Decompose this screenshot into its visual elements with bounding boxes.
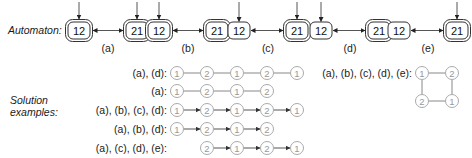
solution-row-label: (a), (d): xyxy=(133,67,167,79)
node-label: 2 xyxy=(264,86,269,97)
cycle-solution-label: (a), (b), (c), (d), (e): xyxy=(322,67,412,79)
node-label: 2 xyxy=(264,124,269,135)
automata-group: 1221(a)1221(b)1221(c)1221(d)1221(e) xyxy=(66,2,471,54)
state-21-accepting: 21 xyxy=(204,20,231,42)
state-label: 21 xyxy=(131,25,143,37)
node-label: 1 xyxy=(294,105,299,116)
solution-row: (a), (b), (d):1212 xyxy=(114,123,274,136)
state-label: 12 xyxy=(153,25,165,37)
node-label: 2 xyxy=(264,68,269,79)
node-label: 1 xyxy=(294,143,299,154)
node-label: 1 xyxy=(174,68,179,79)
state-label: 21 xyxy=(451,25,463,37)
solution-row-label: (a), (b), (c), (d): xyxy=(96,104,167,116)
automaton-caption: (b) xyxy=(182,42,195,54)
solution-node: 2 xyxy=(261,104,274,117)
solution-row: (a), (b), (c), (d):12121 xyxy=(96,104,304,117)
solution-node: 2 xyxy=(201,67,214,80)
solution-node: 1 xyxy=(171,67,184,80)
solution-node: 2 xyxy=(201,85,214,98)
node-label: 1 xyxy=(174,105,179,116)
automaton-e: 1221(e) xyxy=(388,2,471,54)
node-label: 1 xyxy=(449,96,454,107)
cycle-node: 1 xyxy=(416,67,429,80)
node-label: 1 xyxy=(174,86,179,97)
diagram-canvas: Automaton: Solution examples: 1221(a)122… xyxy=(0,0,472,158)
solution-node: 2 xyxy=(201,104,214,117)
node-label: 1 xyxy=(234,68,239,79)
solution-label-line1: Solution xyxy=(10,94,48,106)
state-label: 12 xyxy=(233,25,245,37)
solutions-group: (a), (d):12121(a):1212(a), (b), (c), (d)… xyxy=(96,67,304,155)
solution-node: 1 xyxy=(171,85,184,98)
solution-node: 2 xyxy=(261,123,274,136)
state-12-accepting: 12 xyxy=(66,2,93,42)
solution-node: 1 xyxy=(291,67,304,80)
automaton-caption: (e) xyxy=(422,42,435,54)
cycle-node: 2 xyxy=(416,95,429,108)
state-12: 12 xyxy=(388,22,410,39)
state-12: 12 xyxy=(228,2,250,39)
node-label: 2 xyxy=(204,86,209,97)
node-label: 1 xyxy=(234,143,239,154)
node-label: 1 xyxy=(234,86,239,97)
solution-node: 1 xyxy=(291,104,304,117)
solution-row-label: (a): xyxy=(151,85,167,97)
node-label: 2 xyxy=(204,143,209,154)
state-label: 21 xyxy=(211,25,223,37)
node-label: 1 xyxy=(294,68,299,79)
node-label: 2 xyxy=(204,105,209,116)
solution-row: (a), (d):12121 xyxy=(133,67,304,80)
solution-node: 2 xyxy=(261,142,274,155)
cycle-solution-group: (a), (b), (c), (d), (e):1212 xyxy=(322,67,458,108)
solution-node: 1 xyxy=(171,123,184,136)
state-label: 12 xyxy=(315,25,327,37)
solution-node: 1 xyxy=(291,142,304,155)
state-label: 12 xyxy=(73,25,85,37)
solution-node: 1 xyxy=(171,104,184,117)
node-label: 2 xyxy=(264,105,269,116)
automaton-d: 1221(d) xyxy=(310,2,393,54)
solution-node: 1 xyxy=(231,142,244,155)
state-21-accepting: 21 xyxy=(444,2,471,42)
solution-row-label: (a), (b), (d): xyxy=(114,123,167,135)
solution-node: 1 xyxy=(231,85,244,98)
node-label: 2 xyxy=(449,68,454,79)
state-12: 12 xyxy=(310,2,332,39)
solution-node: 2 xyxy=(201,123,214,136)
state-12-accepting: 12 xyxy=(146,2,173,42)
solution-node: 1 xyxy=(231,67,244,80)
solution-row: (a):1212 xyxy=(151,85,273,98)
state-label: 12 xyxy=(393,25,405,37)
cycle-node: 2 xyxy=(446,67,459,80)
solution-label-line2: examples: xyxy=(10,106,58,118)
solution-node: 1 xyxy=(231,104,244,117)
solution-node: 2 xyxy=(261,85,274,98)
solution-node: 1 xyxy=(231,123,244,136)
automaton-caption: (a) xyxy=(102,42,115,54)
state-label: 21 xyxy=(291,25,303,37)
node-label: 2 xyxy=(204,124,209,135)
automaton-b: 1221(b) xyxy=(146,2,231,54)
state-21-accepting: 21 xyxy=(284,2,311,42)
state-label: 21 xyxy=(373,25,385,37)
node-label: 1 xyxy=(174,124,179,135)
automaton-a: 1221(a) xyxy=(66,2,151,54)
automaton-caption: (c) xyxy=(262,42,274,54)
automaton-caption: (d) xyxy=(344,42,357,54)
automaton-c: 1221(c) xyxy=(228,2,311,54)
solution-node: 2 xyxy=(261,67,274,80)
node-label: 2 xyxy=(264,143,269,154)
node-label: 1 xyxy=(419,68,424,79)
node-label: 1 xyxy=(234,124,239,135)
solution-node: 2 xyxy=(201,142,214,155)
node-label: 2 xyxy=(204,68,209,79)
cycle-node: 1 xyxy=(446,95,459,108)
node-label: 2 xyxy=(419,96,424,107)
solution-row-label: (a), (c), (d), (e): xyxy=(96,142,167,154)
automaton-label: Automaton: xyxy=(7,24,62,36)
solution-row: (a), (c), (d), (e):2121 xyxy=(96,142,304,155)
node-label: 1 xyxy=(234,105,239,116)
